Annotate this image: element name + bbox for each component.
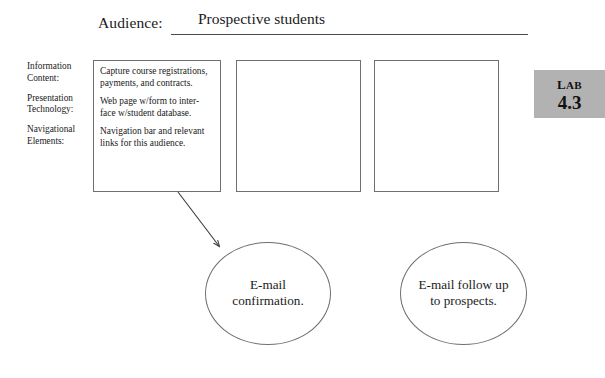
page-box-3[interactable] [374,60,499,192]
audience-value: Prospective students [198,10,325,28]
row-label-presentation-technology: Presentation Technology: [27,93,91,116]
lab-badge-word: Lab [557,76,582,92]
row-labels: Information Content: Presentation Techno… [27,61,91,156]
row-label-navigational-elements: Navigational Elements: [27,124,91,147]
process-circle-2[interactable]: E-mail follow up to prospects. [400,242,527,345]
lab-badge: Lab 4.3 [534,70,605,118]
process-circle-1[interactable]: E-mail confirmation. [205,242,331,345]
row-label-information-content: Information Content: [27,61,91,84]
lab-badge-number: 4.3 [558,93,582,113]
page-box-2[interactable] [236,60,361,192]
page-box-1-body: Capture course registrations, payments, … [94,61,220,149]
navigational-elements-text: Navigation bar and relevant links for th… [100,126,214,150]
presentation-technology-text: Web page w/form to inter-face w/student … [100,96,214,120]
audience-row: Audience: Prospective students [98,10,530,38]
page-box-2-body [237,61,360,66]
process-circle-1-label: E-mail confirmation. [232,277,303,311]
information-content-text: Capture course registrations, payments, … [100,66,214,90]
audience-underline [171,34,528,35]
worksheet-page: Audience: Prospective students Informati… [0,0,605,378]
audience-label: Audience: [98,14,163,32]
page-box-1[interactable]: Capture course registrations, payments, … [93,60,221,192]
process-circle-2-label: E-mail follow up to prospects. [418,277,508,311]
page-box-3-body [375,61,498,66]
